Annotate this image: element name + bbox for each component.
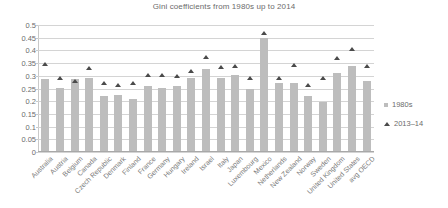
bar-1980s[interactable] [217, 78, 225, 152]
chart-column[interactable] [228, 25, 243, 152]
chart-column[interactable] [243, 25, 258, 152]
y-axis-tick-label: 0.15 [2, 110, 36, 117]
marker-2013-14[interactable] [305, 83, 311, 87]
bar-1980s[interactable] [348, 66, 356, 152]
bar-1980s[interactable] [333, 73, 341, 152]
bar-1980s[interactable] [260, 38, 268, 152]
bar-1980s[interactable] [71, 79, 79, 152]
legend-label: 1980s [392, 100, 412, 109]
bar-1980s[interactable] [56, 88, 64, 152]
chart-column[interactable] [286, 25, 301, 152]
chart-column[interactable] [345, 25, 360, 152]
chart-column[interactable] [169, 25, 184, 152]
y-axis-tick-label: 0.2 [2, 98, 36, 105]
bar-1980s[interactable] [290, 83, 298, 152]
y-axis-tick-label: 0.1 [2, 123, 36, 130]
marker-2013-14[interactable] [72, 79, 78, 83]
x-axis-labels: AustraliaAustriaBelgiumCanadaCzech Repub… [38, 153, 374, 208]
chart-column[interactable] [155, 25, 170, 152]
bar-1980s[interactable] [187, 78, 195, 152]
chart-column[interactable] [184, 25, 199, 152]
bar-1980s[interactable] [319, 102, 327, 152]
y-axis-tick-label: 0 [2, 149, 36, 156]
chart-column[interactable] [96, 25, 111, 152]
marker-2013-14[interactable] [86, 66, 92, 70]
chart-column[interactable] [111, 25, 126, 152]
marker-2013-14[interactable] [57, 76, 63, 80]
bar-1980s[interactable] [202, 69, 210, 152]
chart-column[interactable] [213, 25, 228, 152]
chart-column[interactable] [257, 25, 272, 152]
y-axis-tick-label: 0.3 [2, 72, 36, 79]
bar-1980s[interactable] [246, 89, 254, 152]
y-axis-tick-label: 0.25 [2, 85, 36, 92]
marker-2013-14[interactable] [174, 74, 180, 78]
chart-column[interactable] [67, 25, 82, 152]
square-marker-icon [384, 103, 388, 107]
marker-2013-14[interactable] [349, 47, 355, 51]
y-axis-tick-label: 0.5 [2, 22, 36, 29]
marker-2013-14[interactable] [101, 81, 107, 85]
bar-1980s[interactable] [144, 86, 152, 152]
marker-2013-14[interactable] [159, 73, 165, 77]
marker-2013-14[interactable] [291, 63, 297, 67]
chart-legend: 1980s 2013–14 [384, 100, 446, 138]
bar-1980s[interactable] [173, 86, 181, 152]
y-axis-labels: 00.050.10.150.20.250.30.350.40.450.5 [0, 25, 36, 152]
legend-item-1980s[interactable]: 1980s [384, 100, 446, 109]
chart-column[interactable] [316, 25, 331, 152]
y-axis-tick-label: 0.45 [2, 34, 36, 41]
bar-1980s[interactable] [363, 81, 371, 152]
chart-column[interactable] [82, 25, 97, 152]
legend-item-2013-14[interactable]: 2013–14 [384, 119, 446, 128]
marker-2013-14[interactable] [188, 69, 194, 73]
bar-1980s[interactable] [114, 95, 122, 152]
bar-1980s[interactable] [41, 79, 49, 152]
y-axis-tick-label: 0.35 [2, 60, 36, 67]
chart-column[interactable] [38, 25, 53, 152]
marker-2013-14[interactable] [276, 76, 282, 80]
marker-2013-14[interactable] [218, 65, 224, 69]
chart-column[interactable] [272, 25, 287, 152]
marker-2013-14[interactable] [247, 76, 253, 80]
x-axis-line [38, 151, 374, 152]
plot-area [38, 25, 374, 152]
chart-column[interactable] [359, 25, 374, 152]
chart-column[interactable] [199, 25, 214, 152]
bar-1980s[interactable] [100, 96, 108, 152]
chart-column[interactable] [330, 25, 345, 152]
bar-1980s[interactable] [85, 78, 93, 152]
marker-2013-14[interactable] [42, 62, 48, 66]
bar-1980s[interactable] [158, 88, 166, 152]
marker-2013-14[interactable] [334, 56, 340, 60]
chart-column[interactable] [140, 25, 155, 152]
marker-2013-14[interactable] [364, 64, 370, 68]
marker-2013-14[interactable] [320, 76, 326, 80]
bar-1980s[interactable] [129, 99, 137, 152]
marker-2013-14[interactable] [232, 64, 238, 68]
triangle-marker-icon [384, 122, 390, 126]
legend-label: 2013–14 [394, 119, 423, 128]
bar-1980s[interactable] [231, 75, 239, 152]
marker-2013-14[interactable] [145, 73, 151, 77]
marker-2013-14[interactable] [115, 83, 121, 87]
marker-2013-14[interactable] [130, 81, 136, 85]
bar-1980s[interactable] [275, 83, 283, 152]
bar-1980s[interactable] [304, 96, 312, 152]
marker-2013-14[interactable] [261, 31, 267, 35]
marker-2013-14[interactable] [203, 55, 209, 59]
chart-column[interactable] [301, 25, 316, 152]
chart-title: Gini coefficients from 1980s up to 2014 [0, 2, 448, 11]
chart-column[interactable] [53, 25, 68, 152]
y-axis-tick-label: 0.4 [2, 47, 36, 54]
chart-column[interactable] [126, 25, 141, 152]
gini-coefficients-chart: Gini coefficients from 1980s up to 2014 … [0, 0, 448, 208]
y-axis-tick-label: 0.05 [2, 136, 36, 143]
